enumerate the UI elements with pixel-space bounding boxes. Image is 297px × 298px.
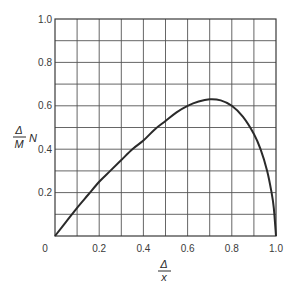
- x-tick-label: 1.0: [269, 243, 283, 254]
- y-tick-label: 0.4: [38, 144, 52, 155]
- x-tick-label: 0.4: [136, 243, 150, 254]
- x-tick-label: 0.6: [181, 243, 195, 254]
- y-tick-label: 1.0: [38, 14, 52, 25]
- y-label-numerator: Δ: [14, 124, 22, 136]
- y-axis-ticks: 0.20.40.60.81.0: [38, 14, 52, 199]
- y-label-denominator: M: [14, 138, 24, 150]
- y-tick-label: 0.6: [38, 100, 52, 111]
- x-label-denominator: x: [160, 271, 167, 283]
- y-tick-label: 0.8: [38, 57, 52, 68]
- y-axis-label: Δ M N: [13, 124, 37, 150]
- y-tick-label: 0.2: [38, 187, 52, 198]
- origin-label: 0: [42, 243, 48, 254]
- x-axis-label: Δ x: [158, 258, 171, 283]
- y-label-suffix: N: [29, 132, 37, 144]
- x-label-numerator: Δ: [159, 258, 167, 270]
- x-tick-label: 0.8: [225, 243, 239, 254]
- x-tick-label: 0.2: [92, 243, 106, 254]
- x-axis-ticks: 00.20.40.60.81.0: [42, 243, 283, 254]
- grid-lines: [55, 19, 276, 236]
- chart: 00.20.40.60.81.0 0.20.40.60.81.0 Δ M N Δ…: [0, 0, 297, 298]
